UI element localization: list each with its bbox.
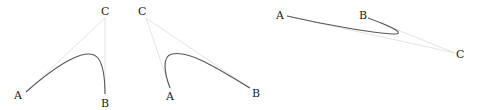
bezier-curve: [287, 16, 398, 34]
point-label-a: A: [13, 89, 23, 102]
point-label-b: B: [359, 9, 367, 22]
diagram-1: A B C: [13, 5, 109, 110]
bezier-curve: [26, 54, 105, 94]
diagram-2: A B C: [138, 5, 260, 103]
point-label-c: C: [456, 48, 464, 61]
diagram-3: A B C: [275, 9, 464, 61]
bezier-diagrams: A B C A B C A B C: [0, 0, 482, 110]
bezier-curve: [165, 53, 250, 88]
guide-line-c-b: [146, 18, 250, 88]
point-label-a: A: [275, 9, 285, 22]
point-label-c: C: [101, 5, 109, 18]
point-label-a: A: [165, 90, 175, 103]
point-label-b: B: [252, 87, 260, 100]
point-label-b: B: [101, 97, 109, 110]
point-label-c: C: [138, 5, 146, 18]
